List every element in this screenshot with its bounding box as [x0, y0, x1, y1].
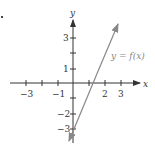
function-label: y = f(x) — [110, 51, 145, 61]
x-tick-label: −1 — [52, 89, 65, 99]
function-graph: −3 −1 2 3 3 1 −2 −3 x y y = f(x) — [0, 0, 155, 152]
function-line-upper — [96, 24, 118, 76]
y-axis-label: y — [69, 8, 76, 18]
x-tick-label: −3 — [20, 89, 34, 99]
y-tick-label: −2 — [57, 109, 70, 119]
y-tick-label: 1 — [63, 64, 69, 74]
bullet-dot — [1, 16, 3, 18]
x-axis-label: x — [143, 79, 148, 89]
x-tick-label: 2 — [102, 89, 108, 99]
y-tick-label: −3 — [57, 124, 71, 134]
y-tick-label: 3 — [63, 33, 69, 43]
x-tick-label: 3 — [118, 89, 124, 99]
